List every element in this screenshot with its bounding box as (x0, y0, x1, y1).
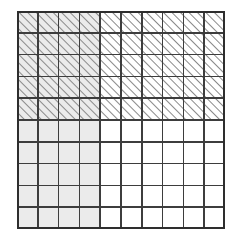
figure-canvas (0, 0, 243, 236)
hundred-grid-figure (17, 11, 225, 229)
grid-svg (17, 11, 225, 229)
